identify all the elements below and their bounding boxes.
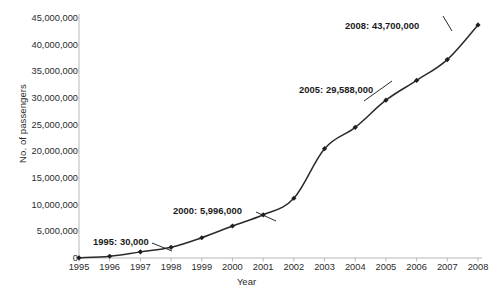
plot-area <box>0 0 493 304</box>
chart-container: No. of passengers 05,000,00010,000,00015… <box>0 0 493 304</box>
series-markers <box>76 22 480 260</box>
series-line <box>79 25 478 258</box>
axes <box>76 14 483 262</box>
data-point-annotation: 2008: 43,700,000 <box>345 20 419 31</box>
data-point-annotation: 2005: 29,588,000 <box>299 84 373 95</box>
x-axis-title: Year <box>0 276 493 287</box>
data-point-annotation: 1995: 30,000 <box>93 236 149 247</box>
data-point-annotation: 2000: 5,996,000 <box>173 205 242 216</box>
